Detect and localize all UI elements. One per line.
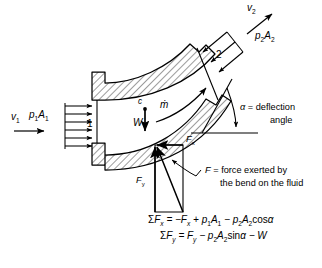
outlet-velocity-label: v2 xyxy=(247,3,256,15)
figure-canvas: v1 p1A1 1 v2 p2A2 2 c W ṁ α = deflectio… xyxy=(0,0,322,268)
inlet-velocity-label: v1 xyxy=(11,112,20,124)
pipe-outer-wall xyxy=(92,44,215,100)
angle-arc xyxy=(227,88,236,127)
weight-label: W xyxy=(133,118,142,129)
centroid-label: c xyxy=(138,98,142,107)
inlet-pressure-force-label: p1A1 xyxy=(29,110,49,122)
massflow-label: ṁ xyxy=(160,100,168,111)
resultant-leader-elbow xyxy=(196,170,201,176)
force-x-label: Fx xyxy=(186,135,195,146)
resultant-force-caption: F = force exerted by xyxy=(205,166,287,176)
outlet-section-label: 2 xyxy=(216,50,222,61)
deflection-angle-label-line2: angle xyxy=(270,116,292,126)
equation-sum-fx: ΣFx = −Fx + p1A1 − p2A2cosα xyxy=(148,215,273,227)
inlet-section-label: 1 xyxy=(87,119,93,130)
equation-sum-fy: ΣFy = Fy − p2A2sinα − W xyxy=(160,231,267,243)
outlet-pressure-force-label: p2A2 xyxy=(255,31,275,43)
deflection-angle-label: α = deflection xyxy=(240,103,295,113)
resultant-force-caption-line2: the bend on the fluid xyxy=(220,179,303,189)
resultant-leader-line xyxy=(172,160,196,176)
force-y-label: Fy xyxy=(136,176,145,187)
